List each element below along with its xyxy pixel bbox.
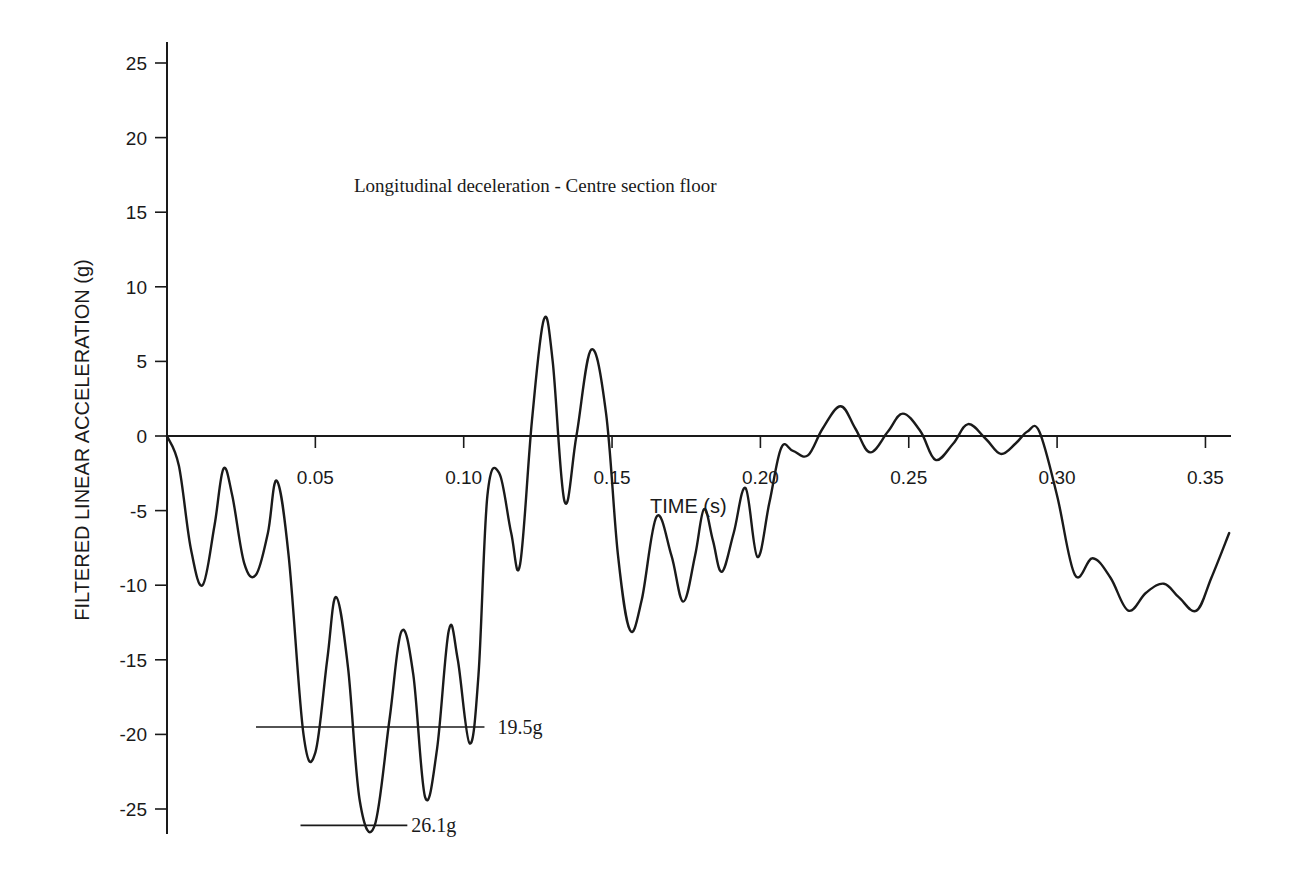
y-tick-label: 5	[136, 351, 147, 372]
y-tick-label: -15	[120, 650, 147, 671]
x-tick-label: 0.10	[445, 467, 482, 488]
y-tick-label: 10	[126, 277, 147, 298]
annotations: 19.5g26.1g	[256, 716, 542, 837]
x-tick-label: 0.05	[297, 467, 334, 488]
chart: 2520151050-5-10-15-20-25 0.050.100.150.2…	[0, 0, 1292, 895]
y-tick-label: 25	[126, 53, 147, 74]
x-axis: 0.050.100.150.200.250.300.35	[167, 436, 1231, 488]
y-tick-label: 15	[126, 202, 147, 223]
y-tick-label: 0	[136, 426, 147, 447]
y-axis-label: FILTERED LINEAR ACCELERATION (g)	[71, 259, 93, 621]
annotation-label: 26.1g	[411, 814, 456, 837]
acceleration-trace-line	[167, 317, 1229, 832]
y-tick-label: 20	[126, 128, 147, 149]
annotation-label: 19.5g	[497, 716, 542, 739]
y-tick-label: -10	[120, 575, 147, 596]
x-tick-label: 0.25	[890, 467, 927, 488]
y-tick-label: -20	[120, 724, 147, 745]
y-axis: 2520151050-5-10-15-20-25	[120, 42, 167, 834]
x-axis-label: TIME (s)	[650, 495, 727, 517]
y-tick-label: -5	[130, 501, 147, 522]
x-tick-label: 0.35	[1187, 467, 1224, 488]
y-tick-label: -25	[120, 799, 147, 820]
chart-title: Longitudinal deceleration - Centre secti…	[354, 175, 717, 196]
x-tick-label: 0.30	[1039, 467, 1076, 488]
